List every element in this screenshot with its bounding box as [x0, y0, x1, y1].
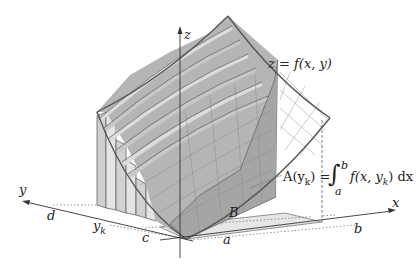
z-axis-arrowhead: [178, 26, 183, 34]
integrand-body: f(x, y: [350, 169, 383, 184]
z-axis-label: z: [184, 28, 191, 41]
y-lower-limit-label: c: [142, 231, 149, 244]
y-k-subscript: k: [100, 226, 105, 236]
y-upper-limit-label: d: [47, 209, 55, 222]
integral-upper-limit: b: [341, 160, 348, 171]
x-axis-label: x: [392, 196, 399, 209]
integrand: f(x, yk) dx: [350, 170, 413, 187]
area-lhs: A(y: [283, 169, 305, 184]
y-axis-label: y: [19, 183, 26, 196]
region-b-label: B: [229, 206, 239, 219]
integral-lower-limit: a: [335, 186, 342, 197]
integral-sign: ∫: [328, 162, 341, 186]
integrand-close: ) dx: [388, 169, 413, 184]
y-k-label: yk: [93, 219, 106, 236]
y-axis-arrowhead: [22, 200, 30, 205]
surface-label: z = f(x, y): [268, 57, 332, 70]
area-formula: A(yk) =: [283, 170, 330, 187]
x-upper-limit-label: b: [354, 222, 362, 235]
x-lower-limit-label: a: [223, 233, 231, 246]
